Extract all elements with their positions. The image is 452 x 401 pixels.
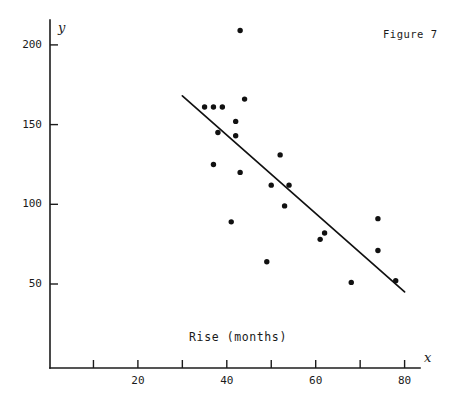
data-point — [220, 104, 225, 109]
x-ticks-group — [93, 360, 404, 368]
data-point — [393, 278, 398, 283]
data-point — [349, 280, 354, 285]
data-point — [269, 182, 274, 187]
data-point — [233, 133, 238, 138]
data-point — [237, 170, 242, 175]
data-point — [264, 259, 269, 264]
y-tick-labels-group: 50100150200 — [22, 38, 42, 290]
x-axis-name-label: x — [424, 350, 432, 365]
x-tick-label-60: 60 — [309, 374, 322, 387]
data-point — [375, 248, 380, 253]
x-tick-labels-group: 20406080 — [131, 374, 411, 387]
x-tick-label-80: 80 — [398, 374, 411, 387]
data-points-group — [202, 28, 399, 285]
data-point — [211, 162, 216, 167]
data-point — [237, 28, 242, 33]
y-tick-label-100: 100 — [22, 197, 42, 210]
data-point — [322, 230, 327, 235]
figure-7-scatter-plot: 50100150200 20406080 y x Rise (months) F… — [0, 0, 452, 401]
data-point — [229, 219, 234, 224]
data-point — [211, 104, 216, 109]
y-tick-label-200: 200 — [22, 38, 42, 51]
regression-fit-line — [182, 96, 404, 292]
data-point — [317, 237, 322, 242]
data-point — [282, 203, 287, 208]
data-point — [242, 96, 247, 101]
y-axis-name-label: y — [57, 20, 66, 35]
y-tick-label-150: 150 — [22, 118, 42, 131]
y-tick-label-50: 50 — [29, 277, 42, 290]
data-point — [233, 119, 238, 124]
x-tick-label-20: 20 — [131, 374, 144, 387]
data-point — [202, 104, 207, 109]
data-point — [277, 152, 282, 157]
y-ticks-group — [50, 45, 58, 284]
axes-group — [50, 20, 420, 368]
data-point — [286, 182, 291, 187]
x-axis-title: Rise (months) — [189, 330, 287, 344]
scatter-plot-canvas: 50100150200 20406080 y x Rise (months) F… — [0, 0, 452, 401]
figure-caption: Figure 7 — [383, 28, 438, 40]
x-tick-label-40: 40 — [220, 374, 233, 387]
data-point — [215, 130, 220, 135]
data-point — [375, 216, 380, 221]
